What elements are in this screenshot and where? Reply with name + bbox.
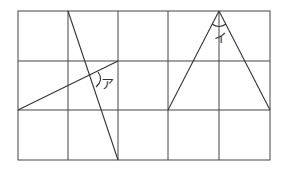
angle-label-i: イ bbox=[214, 30, 227, 45]
angle-arc-a bbox=[96, 72, 101, 87]
grid-diagram: ア イ bbox=[0, 0, 286, 171]
angle-label-a: ア bbox=[101, 76, 114, 91]
grid-border bbox=[18, 11, 270, 160]
grid bbox=[18, 11, 270, 160]
